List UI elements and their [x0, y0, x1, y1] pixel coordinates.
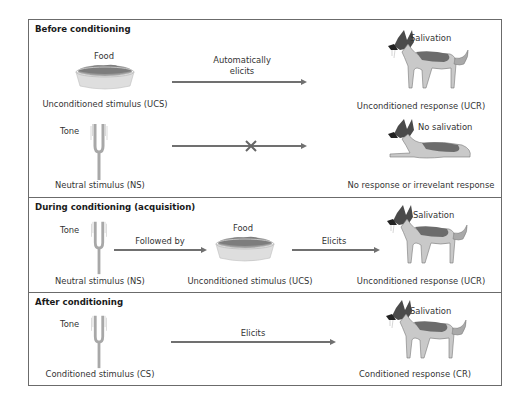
tuning-fork-icon: [89, 314, 109, 370]
tuning-fork-icon: [89, 122, 109, 182]
tone-caption: Tone: [60, 126, 79, 136]
no-response-arrow: [172, 145, 302, 147]
salivation-caption: Salivation: [410, 33, 451, 43]
section-divider: [28, 292, 502, 293]
tuning-fork-icon: [89, 220, 109, 276]
section-title-after: After conditioning: [35, 297, 123, 307]
salivation-caption: Salivation: [410, 306, 451, 316]
food-bowl-icon: [210, 234, 280, 264]
section-title-before: Before conditioning: [35, 24, 131, 34]
section-title-during: During conditioning (acquisition): [35, 202, 195, 212]
ucs-label: Unconditioned stimulus (UCS): [42, 99, 167, 109]
elicits-label: Elicits: [241, 328, 266, 338]
ucs-label: Unconditioned stimulus (UCS): [187, 276, 312, 286]
followed-by-label: Followed by: [135, 236, 185, 246]
food-bowl-icon: [70, 62, 140, 92]
salivation-caption: Salivation: [413, 210, 454, 220]
ucr-label: Unconditioned response (UCR): [357, 101, 485, 111]
x-mark-icon: [244, 139, 258, 153]
food-caption: Food: [94, 51, 114, 61]
tone-caption: Tone: [60, 319, 79, 329]
arrow-label-elicits: elicits: [230, 66, 254, 76]
elicits-label: Elicits: [322, 236, 347, 246]
ns-label: Neutral stimulus (NS): [55, 180, 145, 190]
cs-label: Conditioned stimulus (CS): [46, 369, 155, 379]
food-caption: Food: [233, 223, 253, 233]
no-response-label: No response or irrevelant response: [348, 180, 495, 190]
followed-by-arrow: [114, 249, 202, 251]
arrow-label-automatically: Automatically: [213, 55, 271, 65]
elicits-arrow: [172, 81, 302, 83]
cr-label: Conditioned response (CR): [359, 369, 471, 379]
elicits-arrow: [171, 341, 331, 343]
section-divider: [28, 197, 502, 198]
ns-label: Neutral stimulus (NS): [55, 276, 145, 286]
no-salivation-caption: No salivation: [418, 122, 472, 132]
tone-caption: Tone: [60, 225, 79, 235]
elicits-arrow: [292, 249, 375, 251]
ucr-label: Unconditioned response (UCR): [357, 276, 485, 286]
